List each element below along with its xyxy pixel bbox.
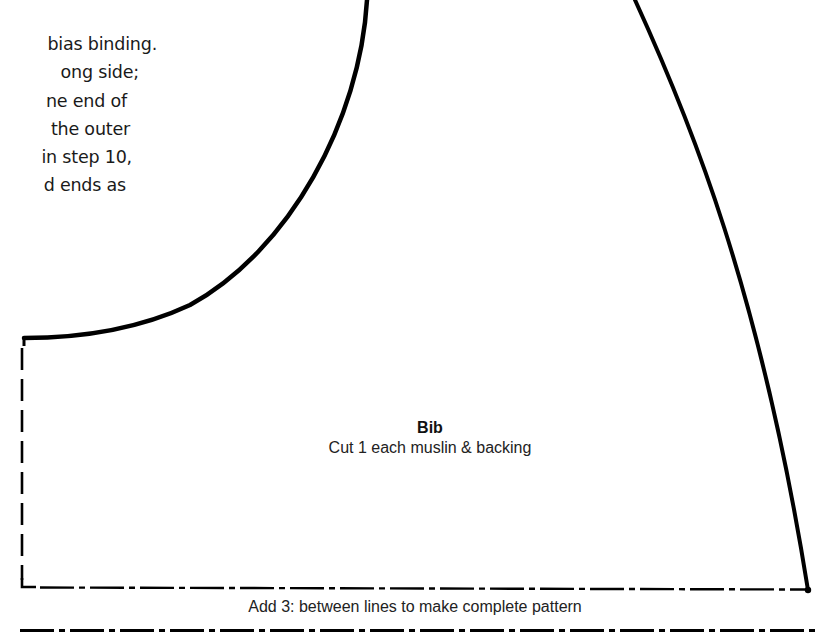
pattern-outline bbox=[0, 0, 817, 632]
cut-instruction: Cut 1 each muslin & backing bbox=[280, 438, 580, 458]
fold-note: Add 3: between lines to make complete pa… bbox=[150, 597, 680, 617]
piece-label: Bib Cut 1 each muslin & backing bbox=[280, 418, 580, 458]
neckline-curve bbox=[24, 0, 367, 338]
upper-fold-line bbox=[40, 588, 806, 590]
bottom-corner-mark bbox=[22, 578, 36, 587]
side-seam-line bbox=[635, 0, 808, 590]
corner-dot bbox=[805, 587, 811, 593]
piece-name: Bib bbox=[280, 418, 580, 438]
